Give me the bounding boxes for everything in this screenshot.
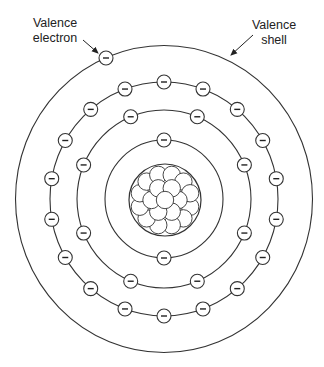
electron-icon [190,110,204,124]
valence-shell-label-line1: Valence [249,18,299,33]
electron-icon [269,212,283,226]
valence-electron-label: Valence electron [30,16,80,46]
electron-icon [118,302,132,316]
electron-icon [99,51,113,65]
atom-diagram: Valence electron Valence shell [0,0,324,367]
electron-icon [45,172,59,186]
valence-shell-label-line2: shell [249,33,299,48]
electron-icon [256,134,270,148]
electron-icon [237,226,251,240]
electron-icon [157,251,171,265]
nucleon-icon [156,191,173,208]
electron-icon [269,172,283,186]
valence-shell-label: Valence shell [249,18,299,48]
electron-icon [77,226,91,240]
electron-icon [58,134,72,148]
electron-icon [124,110,138,124]
electron-icon [157,133,171,147]
electron-icon [84,282,98,296]
electron-icon [58,251,72,265]
atom-svg [0,0,324,367]
electron-icon [237,158,251,172]
electron-icon [196,302,210,316]
electron-icon [196,82,210,96]
electron-icon [118,82,132,96]
electron-icon [256,251,270,265]
nucleus [129,164,201,236]
valence-electron-label-line1: Valence [30,16,80,31]
electron-icon [45,212,59,226]
electron-icon [230,282,244,296]
electron-icon [84,102,98,116]
electron-icon [77,158,91,172]
electron-icon [157,75,171,89]
electron-icon [157,309,171,323]
electron-icon [124,274,138,288]
electron-icon [230,102,244,116]
valence-electron-label-line2: electron [30,31,80,46]
valence-electron-arrow [83,40,98,53]
electron-icon [190,274,204,288]
